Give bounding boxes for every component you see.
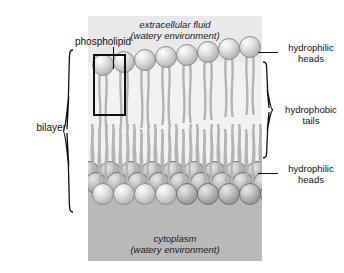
phospholipid-molecule [155,46,177,126]
phospholipid-head [155,46,177,68]
membrane-diagram-panel: extracellular fluid (watery environment)… [88,16,262,261]
phospholipid-tails [138,134,152,186]
phospholipid-head [239,36,261,58]
phospholipid-molecule [92,133,114,205]
phospholipid-tails [159,65,173,125]
phospholipid-tails [117,134,131,186]
hydrophobic-tails-line2: tails [280,115,342,126]
hydrophilic-heads-top-leader-line [258,52,278,53]
phospholipid-tails [222,57,236,117]
phospholipid-tails [138,68,152,128]
extracellular-fluid-line1: extracellular fluid [88,19,262,30]
phospholipid-tails [201,134,215,186]
bilayer-brace [62,48,74,214]
phospholipid-molecule [218,133,240,205]
phospholipid-label: phospholipid [75,36,131,47]
phospholipid-tails [159,134,173,186]
hydrophilic-heads-bottom-line2: heads [280,174,342,185]
phospholipid-molecule [239,133,261,205]
phospholipid-head [218,183,240,205]
phospholipid-head [197,183,219,205]
phospholipid-tails [180,134,194,186]
hydrophilic-heads-bottom-label: hydrophilic heads [280,163,342,185]
phospholipid-head [197,41,219,63]
hydrophilic-heads-top-line1: hydrophilic [280,42,342,53]
phospholipid-molecule [155,133,177,205]
phospholipid-tails [243,55,257,115]
phospholipid-tails [180,63,194,123]
phospholipid-molecule [134,49,156,129]
phospholipid-molecule [176,133,198,205]
phospholipid-head [92,183,114,205]
phospholipid-head [113,183,135,205]
phospholipid-tails [201,60,215,120]
phospholipid-molecule [239,36,261,116]
phospholipid-head [134,49,156,71]
phospholipid-tails [96,134,110,186]
phospholipid-head [176,183,198,205]
phospholipid-molecule [113,133,135,205]
hydrophilic-heads-top-line2: heads [280,53,342,64]
bilayer-label: bilayer [18,122,66,133]
phospholipid-highlight-box [93,54,126,116]
hydrophobic-tails-brace [262,60,274,160]
phospholipid-tails [243,134,257,186]
cytoplasm-line2: (watery environment) [88,244,262,255]
phospholipid-head [239,183,261,205]
phospholipid-molecule [134,133,156,205]
phospholipid-head [134,183,156,205]
clipped-header-text [18,0,318,4]
phospholipid-tails [222,134,236,186]
phospholipid-molecule [197,41,219,121]
phospholipid-head [218,38,240,60]
cytoplasm-label: cytoplasm (watery environment) [88,233,262,255]
phospholipid-molecule [218,38,240,118]
hydrophobic-tails-label: hydrophobic tails [280,104,342,126]
phospholipid-leader-line [113,47,114,69]
cytoplasm-line1: cytoplasm [88,233,262,244]
phospholipid-head [176,44,198,66]
hydrophilic-heads-top-label: hydrophilic heads [280,42,342,64]
hydrophilic-heads-bottom-line1: hydrophilic [280,163,342,174]
hydrophilic-heads-bottom-leader-line [258,173,278,174]
phospholipid-molecule [176,44,198,124]
phospholipid-head [260,183,262,205]
phospholipid-head [155,183,177,205]
hydrophobic-tails-line1: hydrophobic [280,104,342,115]
phospholipid-molecule [197,133,219,205]
